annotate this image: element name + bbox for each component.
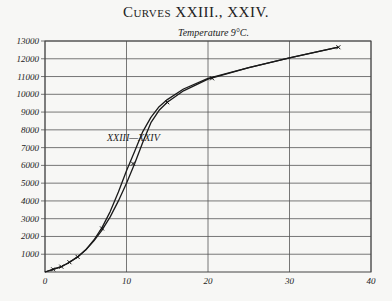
data-marker (76, 255, 80, 259)
y-tick-label: 12000 (17, 54, 40, 64)
y-tick-label: 5000 (21, 178, 40, 188)
y-tick-label: 2000 (21, 231, 40, 241)
x-tick-label: 40 (367, 276, 377, 286)
y-tick-label: 10000 (17, 89, 40, 99)
curve-label: XXIII—XXIV (106, 132, 162, 143)
y-tick-label: 11000 (17, 72, 39, 82)
line-chart: 1000200030004000500060007000800090001000… (0, 0, 392, 301)
y-tick-label: 8000 (21, 125, 40, 135)
y-tick-label: 3000 (20, 214, 40, 224)
y-tick-label: 13000 (17, 36, 40, 46)
x-tick-label: 30 (284, 276, 295, 286)
data-marker (67, 260, 71, 264)
y-tick-label: 4000 (21, 196, 40, 206)
series-line-xxiv (45, 47, 338, 272)
series-line-xxiii (45, 47, 338, 272)
y-tick-label: 6000 (21, 160, 40, 170)
y-tick-label: 9000 (21, 107, 40, 117)
y-tick-label: 7000 (21, 143, 40, 153)
data-marker (165, 100, 169, 104)
x-tick-label: 20 (204, 276, 214, 286)
y-tick-label: 1000 (21, 249, 40, 259)
x-tick-label: 0 (43, 276, 48, 286)
x-tick-label: 10 (122, 276, 132, 286)
